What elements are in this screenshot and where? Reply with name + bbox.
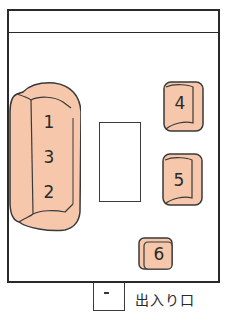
entrance-label: 出入り口 [135,289,195,309]
center-table [99,122,141,202]
seat-number: 1 [13,112,85,132]
entrance-door [93,283,125,311]
top-wall-band [7,32,220,33]
door-handle-mark [104,292,109,294]
seat-number: 3 [13,147,85,167]
seat-number: 6 [141,244,177,264]
seat-number: 5 [158,170,200,190]
chair-4: 4 [163,79,205,133]
chair-6: 6 [138,237,174,271]
seat-number: 4 [159,93,201,113]
seat-number: 2 [13,182,85,202]
chair-5: 5 [162,152,204,207]
sofa: 1 3 2 [9,82,81,232]
